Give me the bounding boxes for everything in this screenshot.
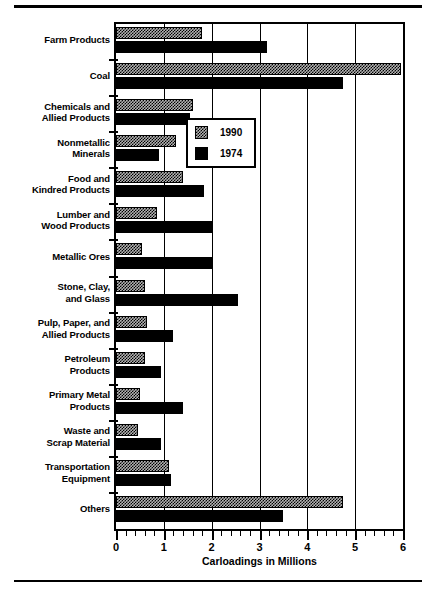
x-tick-label: 0 [113,541,119,553]
bar-1990 [116,280,145,292]
bar-row [116,132,403,168]
bar-1990 [116,496,343,508]
category-label-3: Chemicals andAllied Products [2,101,110,124]
category-label-line: Products [70,401,110,412]
bar-row [116,277,403,313]
x-tick-minor [384,531,385,536]
x-tick-minor [240,531,241,536]
category-label-11: Primary MetalProducts [2,389,110,412]
x-tick-minor [288,531,289,536]
category-label-line: Petroleum [64,353,110,364]
x-tick-minor [298,531,299,536]
bar-1974 [116,257,212,269]
category-label-line: Metallic Ores [52,251,110,262]
category-label-line: Scrap Material [46,437,110,448]
category-label-line: Equipment [62,473,110,484]
bar-row [116,421,403,457]
x-tick-minor [374,531,375,536]
bar-1974 [116,113,190,125]
x-tick-minor [126,531,127,536]
bar-1974 [116,330,173,342]
bar-row [116,60,403,96]
category-label-line: Pulp, Paper, and [38,317,110,328]
category-label-2: Coal [2,70,110,82]
category-axis-tick [109,239,118,241]
category-axis-tick [109,492,118,494]
category-label-line: Products [70,365,110,376]
bar-1990 [116,388,140,400]
x-tick-minor [221,531,222,536]
bar-row [116,349,403,385]
x-tick-minor [336,531,337,536]
bar-1974 [116,474,171,486]
bar-1990 [116,99,193,111]
category-label-line: Chemicals and [44,101,110,112]
x-tick-minor [317,531,318,536]
figure-chart-carloadings: Farm ProductsCoalChemicals andAllied Pro… [0,0,436,589]
bottom-divider-rule [14,580,422,582]
category-label-10: PetroleumProducts [2,353,110,376]
x-tick-minor [193,531,194,536]
category-label-column: Farm ProductsCoalChemicals andAllied Pro… [0,22,110,531]
x-tick-major [403,531,405,540]
bar-1974 [116,366,161,378]
category-label-4: NonmetallicMinerals [2,137,110,160]
x-tick-minor [135,531,136,536]
x-tick-minor [269,531,270,536]
category-axis-tick [109,167,118,169]
legend-entry-1974: 1974 [195,147,242,160]
x-tick-label: 5 [352,541,358,553]
bar-1974 [116,510,283,522]
category-label-8: Stone, Clay,and Glass [2,281,110,304]
category-label-13: TransportationEquipment [2,461,110,484]
bar-1990 [116,460,169,472]
bar-row [116,168,403,204]
bar-row [116,493,403,529]
bar-row [116,457,403,493]
legend-swatch-1974-icon [195,147,208,160]
category-label-line: Allied Products [42,112,110,123]
x-tick-label: 2 [209,541,215,553]
x-tick-minor [231,531,232,536]
legend-box: 1990 1974 [186,118,256,168]
category-label-line: Others [80,503,110,514]
x-tick-minor [279,531,280,536]
bar-1990 [116,27,202,39]
x-tick-label: 4 [304,541,310,553]
x-tick-minor [154,531,155,536]
x-axis-title: Carloadings in Millions [114,555,405,567]
x-tick-minor [346,531,347,536]
bar-1990 [116,243,142,255]
x-tick-minor [202,531,203,536]
bar-row [116,385,403,421]
bar-1974 [116,402,183,414]
x-tick-minor [365,531,366,536]
x-tick-minor [173,531,174,536]
category-label-line: Coal [90,70,110,81]
plot-area [114,22,405,531]
category-label-line: Allied Products [42,329,110,340]
x-tick-major [116,531,118,540]
bar-1974 [116,221,212,233]
category-label-line: Primary Metal [49,389,110,400]
x-tick-major [164,531,166,540]
category-axis-tick [109,384,118,386]
category-label-line: and Glass [65,293,110,304]
category-label-6: Lumber andWood Products [2,209,110,232]
category-label-7: Metallic Ores [2,251,110,263]
category-axis-tick [109,276,118,278]
bar-row [116,204,403,240]
category-axis-tick [109,131,118,133]
bar-1974 [116,41,267,53]
category-label-line: Minerals [72,148,110,159]
bar-1974 [116,438,161,450]
category-label-line: Kindred Products [32,184,110,195]
category-label-14: Others [2,503,110,515]
legend-swatch-1990-icon [195,126,208,139]
category-axis-tick [109,95,118,97]
x-tick-label: 6 [400,541,406,553]
bar-1990 [116,63,401,75]
category-label-line: Stone, Clay, [58,281,110,292]
bar-1990 [116,135,176,147]
top-divider-rule [14,5,422,8]
